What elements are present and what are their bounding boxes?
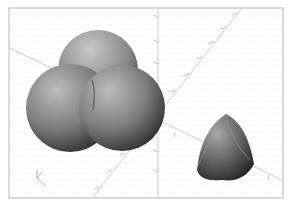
3d-viewport[interactable] bbox=[0, 0, 289, 206]
